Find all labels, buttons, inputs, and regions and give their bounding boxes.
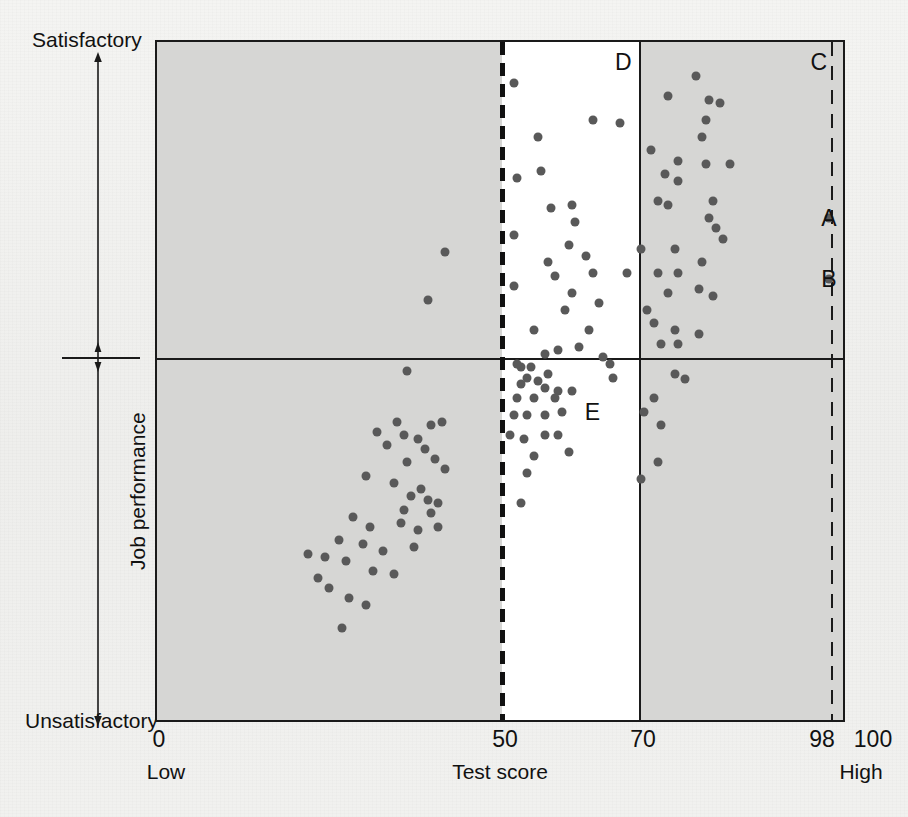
data-point (540, 383, 549, 392)
y-axis-midpoint-tick (62, 357, 140, 359)
data-point (568, 288, 577, 297)
data-point (698, 132, 707, 141)
x-tick-50: 50 (492, 726, 518, 753)
data-point (708, 197, 717, 206)
data-point (622, 268, 631, 277)
annotation-label-a: A (821, 205, 837, 232)
data-point (520, 434, 529, 443)
data-point (434, 499, 443, 508)
data-point (362, 600, 371, 609)
data-point (650, 393, 659, 402)
data-point (595, 299, 604, 308)
data-point (413, 434, 422, 443)
x-axis-low-label: Low (147, 760, 186, 784)
data-point (516, 380, 525, 389)
data-point (674, 339, 683, 348)
data-point (609, 373, 618, 382)
annotation-label-b: B (821, 266, 837, 293)
data-point (365, 522, 374, 531)
data-point (345, 593, 354, 602)
annotation-label-c: C (810, 49, 827, 76)
data-point (427, 421, 436, 430)
y-axis-bottom-label: Unsatisfactory (25, 709, 158, 733)
data-point (427, 509, 436, 518)
annotation-label-e: E (585, 398, 601, 425)
data-point (341, 556, 350, 565)
cut-score-70-line (639, 42, 641, 720)
data-point (399, 505, 408, 514)
x-tick-100: 100 (854, 726, 892, 753)
x-axis-title: Test score (452, 760, 548, 784)
data-point (523, 468, 532, 477)
data-point (550, 393, 559, 402)
data-point (434, 522, 443, 531)
data-point (670, 326, 679, 335)
data-point (660, 170, 669, 179)
data-point (718, 234, 727, 243)
data-point (530, 326, 539, 335)
data-point (657, 339, 666, 348)
data-point (571, 217, 580, 226)
y-axis-top-label: Satisfactory (32, 28, 142, 52)
data-point (705, 214, 714, 223)
data-point (513, 360, 522, 369)
data-point (585, 326, 594, 335)
data-point (530, 451, 539, 460)
data-point (674, 176, 683, 185)
data-point (321, 553, 330, 562)
data-point (417, 485, 426, 494)
data-point (509, 231, 518, 240)
data-point (513, 173, 522, 182)
data-point (712, 224, 721, 233)
data-point (636, 475, 645, 484)
data-point (393, 417, 402, 426)
data-point (646, 146, 655, 155)
data-point (362, 471, 371, 480)
data-point (509, 410, 518, 419)
data-point (379, 546, 388, 555)
data-point (348, 512, 357, 521)
data-point (396, 519, 405, 528)
shaded-band-low (157, 42, 502, 720)
data-point (581, 251, 590, 260)
data-point (554, 431, 563, 440)
data-point (423, 495, 432, 504)
data-point (437, 417, 446, 426)
data-point (664, 200, 673, 209)
data-point (403, 458, 412, 467)
data-point (372, 427, 381, 436)
data-point (674, 268, 683, 277)
data-point (664, 288, 673, 297)
data-point (324, 583, 333, 592)
data-point (643, 305, 652, 314)
data-point (705, 95, 714, 104)
x-axis-high-label: High (839, 760, 882, 784)
data-point (513, 393, 522, 402)
shaded-band-high (640, 42, 843, 720)
x-tick-98: 98 (809, 726, 835, 753)
data-point (701, 160, 710, 169)
data-point (526, 363, 535, 372)
data-point (657, 421, 666, 430)
cut-score-98-line (831, 42, 833, 720)
data-point (540, 431, 549, 440)
data-point (701, 115, 710, 124)
data-point (540, 349, 549, 358)
data-point (664, 92, 673, 101)
data-point (674, 156, 683, 165)
y-axis-title: Job performance (126, 412, 150, 570)
x-tick-0: 0 (153, 726, 166, 753)
data-point (698, 258, 707, 267)
data-point (670, 244, 679, 253)
data-point (516, 499, 525, 508)
data-point (403, 366, 412, 375)
data-point (544, 370, 553, 379)
data-point (554, 346, 563, 355)
data-point (399, 431, 408, 440)
data-point (640, 407, 649, 416)
data-point (410, 543, 419, 552)
data-point (725, 160, 734, 169)
data-point (670, 370, 679, 379)
data-point (681, 374, 690, 383)
data-point (314, 573, 323, 582)
